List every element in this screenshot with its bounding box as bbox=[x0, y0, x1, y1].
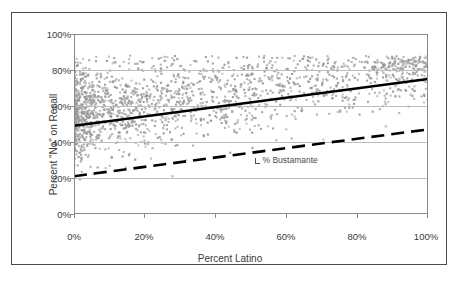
y-tick-label-0: 0% bbox=[25, 210, 71, 219]
chart-screenshot: Percent "No" on Recall 100% 80% 60% 40% … bbox=[0, 0, 458, 281]
chart-frame: Percent "No" on Recall 100% 80% 60% 40% … bbox=[11, 12, 447, 265]
x-tick-label-0: 0% bbox=[51, 231, 97, 242]
trendline-no-on-recall bbox=[74, 79, 428, 126]
plot-area: % Bustamante bbox=[74, 34, 428, 214]
y-tick-label-20: 20% bbox=[25, 174, 71, 183]
annotation-bustamante: % Bustamante bbox=[255, 155, 318, 165]
x-tick-label-20: 20% bbox=[121, 231, 167, 242]
y-tick-label-60: 60% bbox=[25, 102, 71, 111]
annotation-label: % Bustamante bbox=[263, 155, 318, 165]
y-tick-label-100: 100% bbox=[25, 30, 71, 39]
x-tick-20 bbox=[144, 214, 145, 218]
trendline-bustamante bbox=[74, 129, 428, 176]
x-tick-0 bbox=[74, 214, 75, 218]
x-axis-title: Percent Latino bbox=[12, 253, 448, 264]
y-tick-label-80: 80% bbox=[25, 66, 71, 75]
x-tick-label-80: 80% bbox=[334, 231, 380, 242]
x-tick-80 bbox=[357, 214, 358, 218]
x-tick-label-100: 100% bbox=[403, 231, 449, 242]
annotation-leader-icon bbox=[255, 158, 260, 164]
trend-lines-layer bbox=[74, 34, 428, 214]
x-tick-60 bbox=[286, 214, 287, 218]
x-tick-label-60: 60% bbox=[263, 231, 309, 242]
x-tick-label-40: 40% bbox=[192, 231, 238, 242]
y-tick-label-40: 40% bbox=[25, 138, 71, 147]
x-tick-100 bbox=[427, 214, 428, 218]
x-tick-40 bbox=[215, 214, 216, 218]
